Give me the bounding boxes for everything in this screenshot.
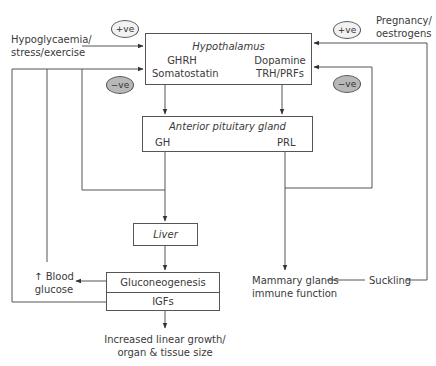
gluconeogenesis-label: Gluconeogenesis [107, 276, 219, 289]
hypothalamus-title: Hypothalamus [146, 40, 311, 53]
liver-outputs-box: Gluconeogenesis IGFs [106, 272, 220, 311]
liver-box: Liver [133, 223, 198, 246]
growth-line-1: Increased linear growth/ [100, 333, 230, 346]
output-gh: GH [155, 136, 170, 149]
negative-modifier-right: −ve [333, 75, 361, 93]
hormone-dopamine: Dopamine [250, 54, 310, 67]
blood-glucose-line-1: ↑ Blood [34, 270, 74, 283]
hypothalamus-left-hormones: GHRH Somatostatin [152, 54, 212, 80]
hormone-somatostatin: Somatostatin [152, 67, 212, 80]
output-prl: PRL [277, 136, 296, 149]
liver-title: Liver [134, 228, 197, 241]
negative-modifier-left: −ve [106, 76, 134, 94]
hormone-trh-prfs: TRH/PRFs [250, 67, 310, 80]
growth-line-2: organ & tissue size [100, 346, 230, 359]
stimulus-pregnancy: Pregnancy/ oestrogens [376, 14, 432, 40]
stimulus-hypoglycaemia: Hypoglycaemia/ stress/exercise [11, 33, 92, 59]
igfs-label: IGFs [107, 295, 219, 308]
positive-modifier-right: +ve [333, 21, 361, 39]
stimulus-line-2: stress/exercise [11, 46, 92, 59]
blood-glucose-label: ↑ Blood glucose [34, 270, 74, 296]
hypothalamus-box: Hypothalamus GHRH Somatostatin Dopamine … [145, 33, 312, 85]
anterior-pituitary-title: Anterior pituitary gland [143, 120, 312, 133]
mammary-line-2: immune function [252, 287, 339, 300]
stimulus-line-1: Hypoglycaemia/ [11, 33, 92, 46]
growth-outcome: Increased linear growth/ organ & tissue … [100, 333, 230, 359]
mammary-line-1: Mammary glands [252, 274, 339, 287]
blood-glucose-line-2: glucose [34, 283, 74, 296]
positive-modifier-left: +ve [111, 20, 139, 38]
box-divider [107, 292, 219, 293]
suckling-label: Suckling [369, 274, 411, 287]
stimulus-line-2: oestrogens [376, 27, 432, 40]
hypothalamus-right-hormones: Dopamine TRH/PRFs [250, 54, 310, 80]
stimulus-line-1: Pregnancy/ [376, 14, 432, 27]
hormone-ghrh: GHRH [152, 54, 212, 67]
mammary-outcome: Mammary glands immune function [252, 274, 339, 300]
anterior-pituitary-box: Anterior pituitary gland GH PRL [142, 116, 313, 152]
